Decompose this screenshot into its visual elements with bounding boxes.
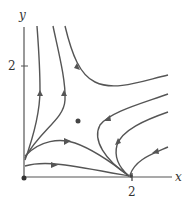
trajectory-2 [25, 26, 65, 158]
arrow-icon [61, 90, 67, 96]
trajectory-6 [98, 94, 168, 176]
trajectory-3 [65, 26, 168, 86]
x-axis-label: x [175, 170, 182, 184]
arrow-icon [51, 162, 58, 168]
trajectories [25, 26, 168, 176]
x-axis-point [129, 174, 133, 178]
arrow-icon [37, 90, 43, 96]
direction-arrows [37, 63, 159, 168]
arrow-icon [152, 148, 159, 154]
trajectory-4 [25, 141, 129, 176]
x-tick-label: 2 [128, 185, 136, 199]
y-tick-label: 2 [8, 59, 16, 73]
trajectory-7 [116, 112, 168, 176]
origin-point [22, 176, 27, 181]
interior-point [76, 119, 81, 124]
arrow-icon [64, 138, 71, 145]
trajectory-5 [25, 163, 129, 176]
y-axis-label: y [18, 8, 26, 22]
trajectory-8 [130, 147, 168, 175]
phase-portrait: y x 2 2 [0, 0, 187, 208]
arrow-icon [104, 115, 111, 121]
